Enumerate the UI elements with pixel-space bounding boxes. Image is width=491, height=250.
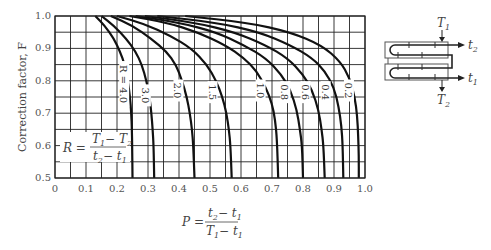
x-tick-label: 0.9 <box>326 183 342 194</box>
x-tick-label: 0.5 <box>202 183 218 194</box>
x-tick-label: 0 <box>52 183 58 194</box>
heat-exchanger-schematic: T1 T2 t2 t1 <box>385 16 478 109</box>
svg-text:3.0: 3.0 <box>140 87 151 103</box>
curve-label: 3.0 <box>140 84 151 106</box>
baffles <box>398 42 435 80</box>
x-axis-ticks: 00.10.20.30.40.50.60.70.80.91.0 <box>52 183 373 194</box>
curve-label: 0.2 <box>343 80 354 102</box>
x-tick-label: 0.8 <box>295 183 311 194</box>
label-T1: T1 <box>437 16 450 32</box>
svg-text:2.0: 2.0 <box>172 83 183 99</box>
p-formula-numerator: t2− t1 <box>208 206 242 222</box>
svg-text:1.0: 1.0 <box>255 83 266 99</box>
r-formula-numerator: T1− T2 <box>92 132 132 148</box>
r-formula-lhs: R = <box>62 141 86 155</box>
y-tick-label: 0.7 <box>35 107 51 118</box>
correction-factor-chart: R = 4.03.02.01.51.00.80.60.40.2 00.10.20… <box>0 0 491 250</box>
r-formula: R = T1− T2 t2− t1 <box>60 132 132 165</box>
x-tick-label: 0.2 <box>109 183 125 194</box>
label-T2: T2 <box>437 93 450 109</box>
arrow-right-icon <box>458 75 465 81</box>
y-axis-ticks: 0.50.60.70.80.91.0 <box>35 10 51 183</box>
y-tick-label: 1.0 <box>35 10 51 21</box>
p-formula-denominator: T1− t1 <box>206 224 243 240</box>
p-formula-lhs: P = <box>181 215 204 229</box>
curve-label: R = 4.0 <box>118 61 129 107</box>
curve-label: 0.8 <box>279 81 290 103</box>
x-tick-label: 1.0 <box>357 183 373 194</box>
x-tick-label: 0.1 <box>78 183 94 194</box>
y-tick-label: 0.8 <box>35 75 51 86</box>
arrow-right-icon <box>458 42 465 48</box>
x-tick-label: 0.3 <box>140 183 156 194</box>
arrow-down-icon <box>439 37 445 42</box>
x-tick-label: 0.6 <box>233 183 249 194</box>
arrow-down-icon <box>439 87 445 92</box>
curve-label: 2.0 <box>172 80 183 102</box>
svg-text:0.8: 0.8 <box>279 84 290 100</box>
svg-text:1.5: 1.5 <box>207 84 218 100</box>
x-tick-label: 0.4 <box>171 183 187 194</box>
curve-label: 0.4 <box>320 81 331 103</box>
svg-text:0.6: 0.6 <box>300 84 311 100</box>
curve-label: 1.5 <box>207 81 218 103</box>
y-tick-label: 0.6 <box>35 140 51 151</box>
svg-text:R = 4.0: R = 4.0 <box>118 65 129 103</box>
label-t1: t1 <box>468 71 478 87</box>
y-tick-label: 0.5 <box>35 172 51 183</box>
label-t2: t2 <box>468 38 478 54</box>
p-formula: P = t2− t1 T1− t1 <box>181 206 243 240</box>
y-tick-label: 0.9 <box>35 42 51 53</box>
y-axis-title: Correction factor, F <box>16 42 29 152</box>
x-tick-label: 0.7 <box>264 183 280 194</box>
svg-text:0.4: 0.4 <box>320 84 331 100</box>
curve-label: 1.0 <box>255 80 266 102</box>
svg-text:0.2: 0.2 <box>343 83 354 99</box>
tube-path <box>390 45 460 78</box>
curve-label: 0.6 <box>300 81 311 103</box>
